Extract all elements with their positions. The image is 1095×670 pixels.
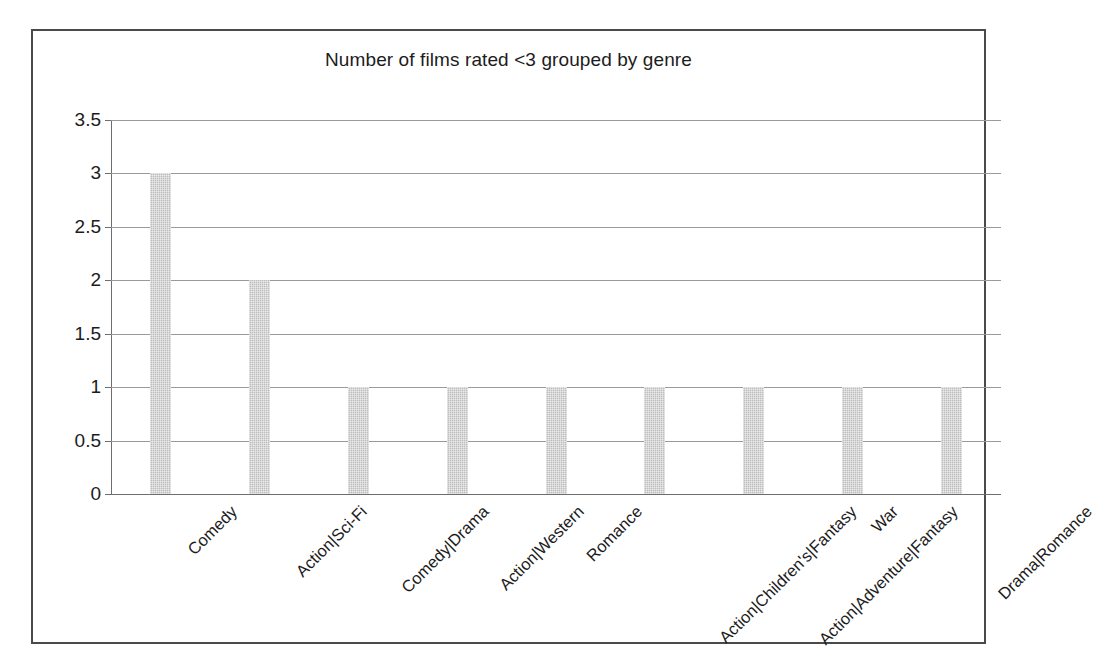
bar (150, 173, 171, 494)
bar (249, 280, 270, 494)
y-axis-tick-labels: 00.511.522.533.5 (33, 31, 101, 642)
bar (941, 387, 962, 494)
chart-frame: Number of films rated <3 grouped by genr… (31, 29, 986, 644)
bar (743, 387, 764, 494)
y-axis-tick-label: 3 (41, 162, 101, 184)
y-axis-tick (105, 441, 111, 442)
gridline (111, 280, 1001, 281)
x-axis-tick-label: Comedy (184, 502, 241, 559)
y-axis-tick-label: 0 (41, 483, 101, 505)
bar (447, 387, 468, 494)
y-axis-tick-label: 2.5 (41, 216, 101, 238)
y-axis-tick (105, 387, 111, 388)
x-axis-tick-label: Action|Children's|Fantasy (715, 502, 860, 647)
y-axis-tick-label: 3.5 (41, 109, 101, 131)
y-axis-tick-label: 1 (41, 376, 101, 398)
bar (644, 387, 665, 494)
bar (348, 387, 369, 494)
gridline (111, 173, 1001, 174)
x-axis-tick-label: Romance (583, 502, 646, 565)
plot-area (111, 120, 1001, 494)
gridline (111, 334, 1001, 335)
gridline (111, 494, 1001, 495)
x-axis-tick-label: War (867, 502, 901, 536)
y-axis-tick (105, 120, 111, 121)
y-axis-tick (105, 494, 111, 495)
gridline (111, 227, 1001, 228)
chart-title: Number of films rated <3 grouped by genr… (33, 49, 984, 71)
y-axis-tick-label: 2 (41, 269, 101, 291)
y-axis-tick (105, 173, 111, 174)
y-axis-tick-label: 1.5 (41, 323, 101, 345)
x-axis-tick-label: Action|Adventure|Fantasy (815, 502, 962, 649)
bar (842, 387, 863, 494)
gridline (111, 120, 1001, 121)
x-axis-tick-label: Drama|Romance (994, 502, 1095, 603)
y-axis-tick-label: 0.5 (41, 430, 101, 452)
bar (546, 387, 567, 494)
y-axis-tick (105, 227, 111, 228)
y-axis-tick (105, 280, 111, 281)
y-axis-tick (105, 334, 111, 335)
x-axis-tick-label: Comedy|Drama (398, 502, 493, 597)
x-axis-tick-label: Action|Western (496, 502, 588, 594)
x-axis-tick-label: Action|Sci-Fi (292, 502, 371, 581)
